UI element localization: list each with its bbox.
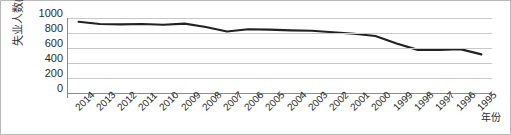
gridline (68, 48, 492, 49)
plot-area (67, 18, 492, 93)
y-axis-title: 失业人数(人) (9, 0, 25, 61)
x-axis-title: 年份 (481, 109, 501, 124)
unemployment-line-chart: 失业人数(人) 10008006004002000 20142013201220… (0, 0, 511, 135)
gridline (68, 63, 492, 64)
y-tick-label: 200 (27, 68, 63, 78)
y-tick-label: 400 (27, 53, 63, 63)
y-axis-tick-labels: 10008006004002000 (27, 13, 63, 93)
series-line-unemployment (68, 18, 492, 93)
y-tick-label: 800 (27, 23, 63, 33)
y-tick-label: 0 (27, 83, 63, 93)
x-axis-tick-labels: 2014201320122011201020092008200720062005… (1, 97, 511, 135)
gridline (68, 78, 492, 79)
gridline (68, 18, 492, 19)
y-tick-label: 1000 (27, 8, 63, 18)
y-tick-label: 600 (27, 38, 63, 48)
gridline (68, 33, 492, 34)
